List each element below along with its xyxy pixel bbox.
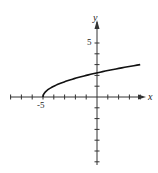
- x-tick-label-neg5: -5: [37, 100, 45, 110]
- sqrt-curve: [43, 65, 140, 97]
- y-axis-label: y: [92, 12, 98, 23]
- y-tick-label-5: 5: [87, 37, 92, 47]
- axis-ticks: [11, 43, 141, 162]
- chart-canvas: x y -5 5: [0, 0, 158, 173]
- x-axis-label: x: [147, 91, 153, 102]
- axes: [10, 20, 146, 165]
- x-axis-arrow-icon: [138, 95, 146, 100]
